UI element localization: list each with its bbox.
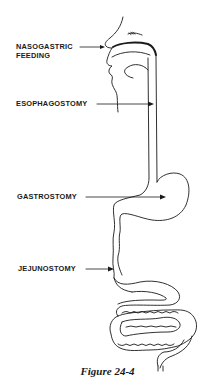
- arrowhead-esophagostomy: [148, 102, 154, 107]
- colon-inner-fold: [126, 326, 176, 327]
- throat-curve: [125, 65, 148, 78]
- colon-inner: [120, 317, 180, 336]
- label-nasogastric-line2: FEEDING: [16, 52, 73, 61]
- label-jejunostomy: JEJUNOSTOMY: [18, 265, 76, 274]
- stomach: [118, 173, 189, 275]
- figure-caption: Figure 24-4: [0, 365, 215, 377]
- label-nasogastric-feeding: NASOGASTRIC FEEDING: [16, 43, 73, 60]
- label-esophagostomy: ESOPHAGOSTOMY: [16, 100, 87, 109]
- arrowhead-nasogastric: [100, 45, 105, 49]
- arrowhead-gastrostomy: [160, 195, 166, 200]
- palate: [113, 43, 156, 55]
- tongue: [112, 52, 150, 57]
- colon-haustra-top: [122, 312, 178, 314]
- colon-haustra-bottom: [118, 344, 174, 346]
- label-gastrostomy: GASTROSTOMY: [17, 193, 77, 202]
- jejunum-inner: [118, 291, 166, 304]
- colon: [110, 310, 197, 351]
- rectum: [157, 336, 192, 368]
- face-profile: [105, 17, 123, 112]
- arrows: [80, 45, 166, 272]
- eye: [128, 33, 142, 36]
- esophagus-right: [156, 55, 157, 182]
